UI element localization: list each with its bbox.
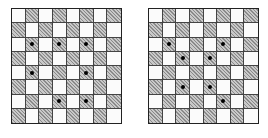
board-square (67, 109, 81, 123)
board-square (107, 38, 121, 52)
board-square (80, 23, 94, 37)
board-square (244, 109, 258, 123)
board-square (26, 38, 40, 52)
board-square (163, 109, 177, 123)
board-square (53, 38, 67, 52)
dot-marker-icon (208, 85, 212, 89)
board-square (53, 23, 67, 37)
board-square (67, 95, 81, 109)
board-square (12, 52, 26, 66)
board-square (94, 23, 108, 37)
board-square (12, 109, 26, 123)
board-square (39, 38, 53, 52)
board-square (26, 23, 40, 37)
board-square (204, 9, 218, 23)
board-square (12, 23, 26, 37)
board-square (26, 9, 40, 23)
board-square (217, 38, 231, 52)
dot-marker-icon (30, 42, 34, 46)
board-square (204, 38, 218, 52)
board-square (217, 52, 231, 66)
board-square (149, 109, 163, 123)
board-square (190, 109, 204, 123)
board-square (80, 9, 94, 23)
board-square (244, 52, 258, 66)
board-square (94, 52, 108, 66)
board-square (80, 52, 94, 66)
dot-marker-icon (57, 99, 61, 103)
board-square (107, 9, 121, 23)
board-square (163, 66, 177, 80)
board-square (231, 23, 245, 37)
board-square (149, 66, 163, 80)
board-square (190, 66, 204, 80)
board-square (12, 9, 26, 23)
board-square (26, 52, 40, 66)
dot-marker-icon (84, 99, 88, 103)
board-square (149, 9, 163, 23)
board-square (53, 80, 67, 94)
dot-marker-icon (221, 42, 225, 46)
board-square (12, 95, 26, 109)
board-square (231, 109, 245, 123)
board-square (12, 80, 26, 94)
board-square (94, 109, 108, 123)
board-square (80, 66, 94, 80)
board-square (176, 80, 190, 94)
dot-marker-icon (167, 42, 171, 46)
board-square (67, 52, 81, 66)
board-square (231, 52, 245, 66)
board-square (176, 9, 190, 23)
board-square (217, 66, 231, 80)
board-square (39, 66, 53, 80)
board-square (26, 95, 40, 109)
board-square (107, 66, 121, 80)
dot-marker-icon (84, 71, 88, 75)
board-square (244, 38, 258, 52)
board-square (94, 95, 108, 109)
board-square (204, 23, 218, 37)
board-square (176, 66, 190, 80)
board-square (107, 80, 121, 94)
dot-marker-icon (84, 42, 88, 46)
board-square (94, 9, 108, 23)
dot-marker-icon (208, 56, 212, 60)
board-square (149, 23, 163, 37)
board-square (190, 95, 204, 109)
board-square (163, 23, 177, 37)
board-square (12, 38, 26, 52)
board-square (176, 95, 190, 109)
board-square (176, 52, 190, 66)
board-square (190, 38, 204, 52)
board-square (67, 38, 81, 52)
board-square (80, 109, 94, 123)
board-square (67, 80, 81, 94)
board-square (53, 66, 67, 80)
board-square (94, 38, 108, 52)
board-square (80, 80, 94, 94)
board-square (80, 38, 94, 52)
board-square (176, 23, 190, 37)
board-square (53, 52, 67, 66)
board-square (149, 38, 163, 52)
board-square (163, 80, 177, 94)
board-square (190, 80, 204, 94)
board-square (39, 95, 53, 109)
board-square (67, 9, 81, 23)
checkerboard-left (11, 8, 122, 124)
board-square (217, 9, 231, 23)
dot-marker-icon (181, 85, 185, 89)
board-square (94, 80, 108, 94)
board-square (204, 80, 218, 94)
board-square (39, 52, 53, 66)
board-square (67, 23, 81, 37)
board-square (149, 80, 163, 94)
board-square (107, 52, 121, 66)
board-square (53, 95, 67, 109)
board-square (217, 23, 231, 37)
board-square (107, 23, 121, 37)
dot-marker-icon (57, 42, 61, 46)
board-square (39, 109, 53, 123)
board-square (39, 23, 53, 37)
board-square (176, 38, 190, 52)
